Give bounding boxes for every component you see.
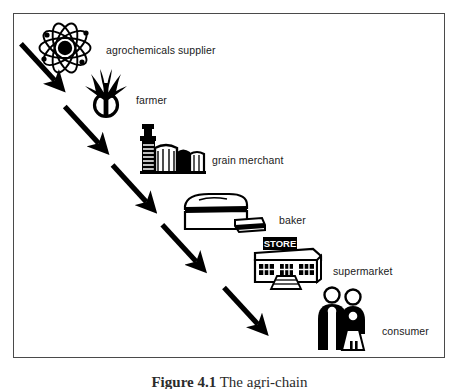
stage-label-baker: baker xyxy=(279,214,306,226)
arrow-supermarket-to-consumer xyxy=(224,287,258,324)
figure-caption: Figure 4.1 The agri-chain xyxy=(0,374,459,389)
store-building-icon: STORE xyxy=(251,236,325,290)
two-people-icon xyxy=(314,286,370,352)
stage-label-agrochemicals-supplier: agrochemicals supplier xyxy=(106,44,216,56)
store-sign-text: STORE xyxy=(264,238,297,249)
stage-label-farmer: farmer xyxy=(136,94,167,106)
plant-sprout-icon xyxy=(82,67,130,120)
figure-caption-number: Figure 4.1 xyxy=(151,374,216,389)
stage-label-consumer: consumer xyxy=(382,325,429,337)
stage-label-grain-merchant: grain merchant xyxy=(212,154,283,166)
stage-label-supermarket: supermarket xyxy=(333,265,392,277)
figure-caption-text: The agri-chain xyxy=(220,374,308,389)
bread-loaf-icon xyxy=(179,192,267,234)
figure-frame: agrochemicals supplier farmer xyxy=(13,13,445,358)
grain-elevator-icon xyxy=(130,124,206,174)
